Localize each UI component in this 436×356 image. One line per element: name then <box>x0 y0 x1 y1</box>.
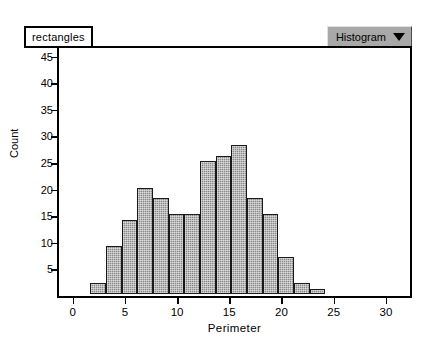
y-tick-label: 30 <box>41 130 53 142</box>
y-tick-label: 20 <box>41 184 53 196</box>
x-tick-mark <box>334 298 336 304</box>
x-axis-title: Perimeter <box>57 322 412 334</box>
histogram-bar <box>106 246 122 294</box>
y-tick-label: 5 <box>47 263 53 275</box>
x-tick-mark <box>177 298 179 304</box>
histogram-bar <box>200 161 216 294</box>
histogram-bar <box>263 214 279 294</box>
x-tick-label: 5 <box>122 306 128 318</box>
x-tick-label: 15 <box>223 306 236 318</box>
y-tick-label: 15 <box>41 210 53 222</box>
y-tick-label: 10 <box>41 237 53 249</box>
histogram-bar <box>137 188 153 294</box>
histogram-bar <box>122 220 138 294</box>
y-tick-label: 40 <box>41 77 53 89</box>
histogram-bar <box>231 145 247 294</box>
y-axis <box>57 48 59 298</box>
x-tick-label: 25 <box>327 306 340 318</box>
histogram-window: rectangles Histogram 051015202530 Count … <box>0 0 436 356</box>
plot-type-label: Histogram <box>336 31 386 43</box>
histogram-bar <box>184 214 200 294</box>
plot-type-dropdown[interactable]: Histogram <box>327 26 412 48</box>
x-tick-mark <box>281 298 283 304</box>
histogram-bar <box>278 257 294 294</box>
y-tick-label: 35 <box>41 104 53 116</box>
y-tick-label: 25 <box>41 157 53 169</box>
x-tick-label: 30 <box>379 306 392 318</box>
histogram-bar <box>216 156 232 294</box>
dataset-tab-label: rectangles <box>32 31 85 43</box>
chevron-down-icon <box>393 33 405 41</box>
histogram-bar <box>90 283 106 294</box>
histogram-bars <box>59 48 410 296</box>
histogram-bar <box>247 198 263 294</box>
histogram-bar <box>310 289 326 294</box>
x-tick-mark <box>125 298 127 304</box>
x-tick-mark <box>73 298 75 304</box>
x-axis-ticks: 051015202530 <box>57 298 412 322</box>
x-tick-label: 10 <box>171 306 184 318</box>
x-tick-mark <box>386 298 388 304</box>
histogram-bar <box>294 283 310 294</box>
x-tick-label: 20 <box>275 306 288 318</box>
histogram-bar <box>169 214 185 294</box>
x-tick-label: 0 <box>69 306 75 318</box>
x-tick-mark <box>229 298 231 304</box>
plot-area <box>59 48 410 296</box>
histogram-bar <box>153 198 169 294</box>
y-axis-title: Count <box>8 129 20 158</box>
dataset-tab-rectangles[interactable]: rectangles <box>24 26 93 48</box>
y-tick-label: 45 <box>41 51 53 63</box>
plot-frame <box>57 46 412 298</box>
